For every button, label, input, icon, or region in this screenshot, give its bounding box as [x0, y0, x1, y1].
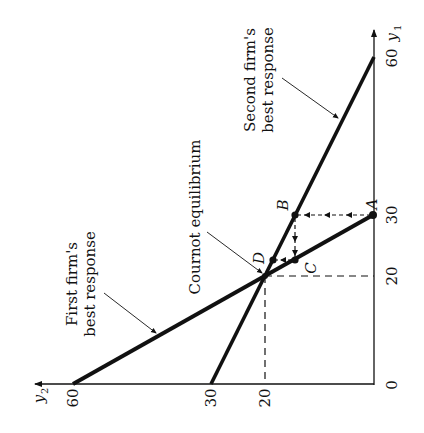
first-firm-label-line2: best response — [81, 231, 99, 337]
y1-tick-20: 20 — [383, 266, 401, 285]
second-firm-label-line1: Second firm's — [241, 28, 259, 132]
point-b-dot — [291, 211, 298, 218]
svg-text:y: y — [30, 394, 48, 404]
point-d-label: D — [250, 252, 268, 265]
y1-tick-60: 60 — [383, 48, 401, 67]
cournot-equilibrium-label: Cournot equilibrium — [186, 140, 204, 295]
first-firm-label-line1: First firm's — [63, 242, 81, 326]
second-firm-label-line2: best response — [259, 27, 277, 133]
y2-tick-60: 60 — [64, 388, 82, 407]
y1-tick-0: 0 — [383, 380, 401, 390]
point-d-dot — [269, 256, 276, 263]
equilibrium-dot — [262, 273, 268, 279]
y1-axis-label: y 1 — [383, 25, 403, 43]
y2-tick-30: 30 — [202, 388, 220, 407]
svg-text:1: 1 — [392, 25, 403, 31]
equilibrium-guides — [265, 276, 374, 384]
point-a-label: A — [363, 198, 381, 211]
point-c-dot — [291, 256, 298, 263]
cournot-diagram: First firm's best response Second firm's… — [0, 0, 424, 433]
svg-text:y: y — [383, 32, 401, 42]
point-b-label: B — [274, 199, 292, 211]
y2-tick-20: 20 — [256, 388, 274, 407]
second-firm-best-response-line — [211, 57, 374, 384]
point-a-dot — [369, 211, 377, 219]
point-c-label: C — [302, 262, 320, 274]
y2-axis-label: y 2 — [30, 388, 50, 405]
adjustment-path — [276, 212, 371, 263]
y1-tick-30: 30 — [383, 205, 401, 224]
annotation-arrows — [104, 78, 338, 333]
svg-text:2: 2 — [39, 388, 50, 394]
